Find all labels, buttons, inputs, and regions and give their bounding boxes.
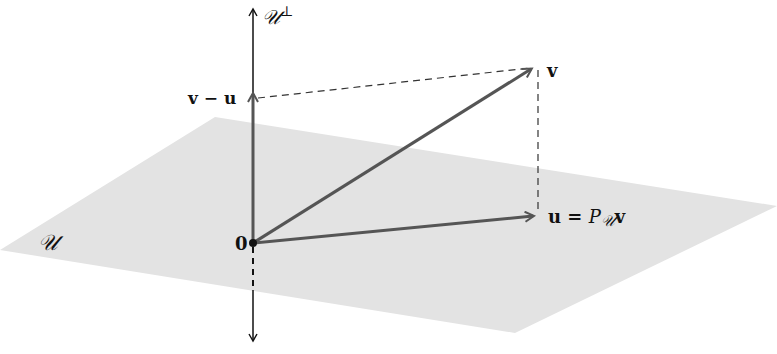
label-u-projection: u = P𝒰v bbox=[548, 206, 626, 230]
subspace-plane bbox=[0, 117, 777, 333]
label-origin: 0 bbox=[235, 233, 248, 254]
projection-diagram: 𝒰⊥ v − u v u = P𝒰v 0 𝒰 bbox=[0, 0, 777, 354]
label-v: v bbox=[546, 60, 558, 81]
origin-point bbox=[249, 239, 257, 247]
label-v-minus-u: v − u bbox=[187, 88, 236, 108]
label-perp-axis: 𝒰⊥ bbox=[262, 3, 293, 29]
